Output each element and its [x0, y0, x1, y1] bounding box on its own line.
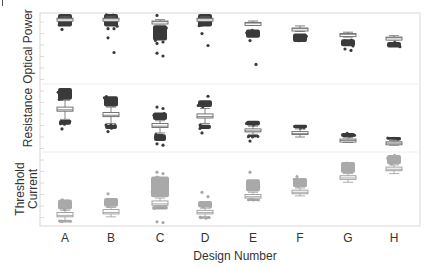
xtick-d: D	[195, 231, 215, 245]
xtick-e: E	[243, 231, 263, 245]
x-axis-label: Design Number	[165, 249, 305, 263]
xtick-c: C	[150, 231, 170, 245]
box-plot-chart	[0, 0, 433, 268]
ylabel-current: Current	[27, 144, 40, 234]
xtick-f: F	[290, 231, 310, 245]
xtick-h: H	[384, 231, 404, 245]
xtick-g: G	[338, 231, 358, 245]
xtick-b: B	[101, 231, 121, 245]
ylabel-threshold-current: Threshold Current	[14, 144, 42, 234]
xtick-a: A	[55, 231, 75, 245]
plot-frame	[40, 13, 420, 226]
